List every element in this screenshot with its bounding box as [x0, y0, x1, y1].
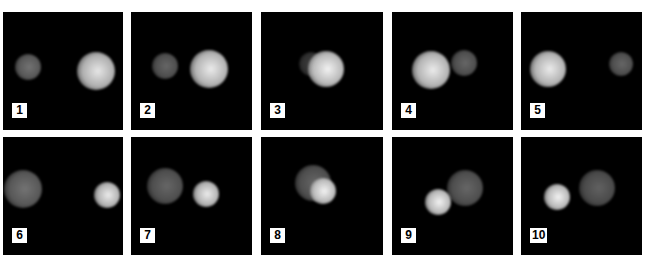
frame-panel-9: 9 [392, 137, 513, 255]
frame-panel-4: 4 [392, 12, 513, 130]
frame-number-label: 4 [401, 103, 416, 118]
frame-number-label: 9 [401, 228, 416, 243]
glowing-sphere [425, 189, 451, 215]
frame-number-label: 5 [530, 103, 545, 118]
frame-panel-8: 8 [261, 137, 383, 255]
frame-panel-5: 5 [521, 12, 642, 130]
frame-number-label: 6 [12, 228, 27, 243]
glowing-sphere [530, 51, 566, 87]
glowing-sphere [447, 170, 483, 206]
frame-number-label: 8 [270, 228, 285, 243]
glowing-sphere [579, 170, 615, 206]
glowing-sphere [15, 54, 41, 80]
glowing-sphere [77, 52, 115, 90]
frame-panel-3: 3 [261, 12, 383, 130]
frame-panel-6: 6 [3, 137, 123, 255]
frame-number-label: 3 [270, 103, 285, 118]
frame-panel-7: 7 [131, 137, 252, 255]
glowing-sphere [152, 53, 178, 79]
frame-number-label: 2 [140, 103, 155, 118]
glowing-sphere [94, 182, 120, 208]
frame-number-label: 1 [12, 103, 27, 118]
glowing-sphere [544, 184, 570, 210]
glowing-sphere [308, 51, 344, 87]
glowing-sphere [147, 168, 183, 204]
glowing-sphere [451, 50, 477, 76]
glowing-sphere [609, 52, 633, 76]
frame-number-label: 10 [530, 228, 547, 243]
glowing-sphere [190, 50, 228, 88]
frame-panel-2: 2 [131, 12, 252, 130]
glowing-sphere [4, 170, 42, 208]
frame-panel-10: 10 [521, 137, 642, 255]
frame-number-label: 7 [140, 228, 155, 243]
frame-panel-1: 1 [3, 12, 123, 130]
glowing-sphere [412, 51, 450, 89]
glowing-sphere [193, 181, 219, 207]
glowing-sphere [310, 178, 336, 204]
